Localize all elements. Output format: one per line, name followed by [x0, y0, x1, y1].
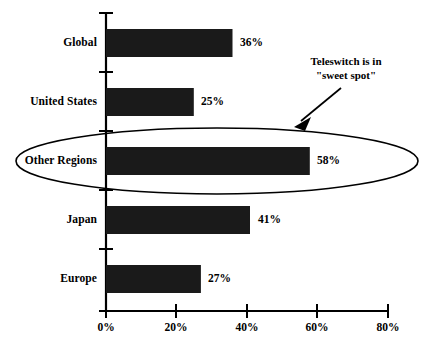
x-tick-label-60: 60%: [297, 321, 337, 333]
category-label-other-regions: Other Regions: [25, 154, 97, 166]
bars: [106, 29, 310, 293]
bar-united-states: [106, 88, 194, 116]
bar-europe: [106, 265, 201, 293]
category-label-global: Global: [63, 36, 97, 48]
value-label-europe: 27%: [208, 272, 231, 284]
value-label-global: 36%: [240, 36, 263, 48]
x-tick-label-40: 40%: [227, 321, 267, 333]
annotation-line-2: "sweet spot": [292, 69, 400, 83]
x-tick-label-80: 80%: [368, 321, 408, 333]
category-label-europe: Europe: [60, 272, 97, 284]
bar-other-regions: [106, 147, 310, 175]
x-tick-label-0: 0%: [86, 321, 126, 333]
category-label-united-states: United States: [30, 95, 97, 107]
value-label-japan: 41%: [258, 213, 281, 225]
value-label-united-states: 25%: [201, 95, 224, 107]
value-label-other-regions: 58%: [317, 154, 340, 166]
bar-japan: [106, 206, 250, 234]
annotation-line-1: Teleswitch is in: [292, 55, 400, 69]
x-tick-label-20: 20%: [156, 321, 196, 333]
bar-chart: Global United States Other Regions Japan…: [0, 0, 433, 346]
callout-arrow-icon: [294, 88, 341, 131]
annotation-callout: Teleswitch is in "sweet spot": [292, 55, 400, 83]
category-label-japan: Japan: [66, 213, 97, 225]
chart-canvas: [0, 0, 433, 346]
bar-global: [106, 29, 233, 57]
